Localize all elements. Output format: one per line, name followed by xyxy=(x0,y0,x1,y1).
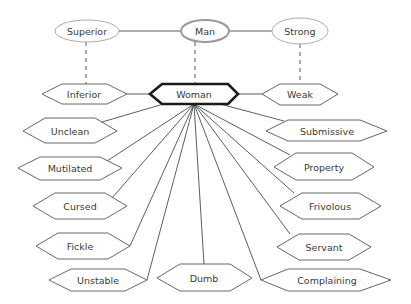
svg-text:Strong: Strong xyxy=(284,26,315,37)
node-unstable: Unstable xyxy=(49,269,147,291)
svg-text:Frivolous: Frivolous xyxy=(309,201,351,212)
node-dumb: Dumb xyxy=(157,264,252,291)
svg-text:Complaining: Complaining xyxy=(297,275,357,286)
svg-text:Servant: Servant xyxy=(306,242,343,253)
svg-text:Man: Man xyxy=(195,26,215,37)
node-complaining: Complaining xyxy=(261,269,391,291)
node-frivolous: Frivolous xyxy=(280,193,381,219)
svg-text:Unstable: Unstable xyxy=(77,275,119,286)
node-property: Property xyxy=(274,153,374,180)
woman-concept-diagram: Superior Man Strong Woman Inferior Weak … xyxy=(0,0,411,304)
node-woman: Woman xyxy=(150,84,238,104)
svg-text:Superior: Superior xyxy=(67,26,107,37)
svg-text:Inferior: Inferior xyxy=(67,89,101,100)
svg-text:Cursed: Cursed xyxy=(63,201,96,212)
node-servant: Servant xyxy=(277,234,371,260)
node-mutilated: Mutilated xyxy=(18,157,122,180)
node-strong: Strong xyxy=(272,18,328,44)
node-inferior: Inferior xyxy=(42,84,127,104)
svg-text:Fickle: Fickle xyxy=(67,241,94,252)
svg-text:Unclean: Unclean xyxy=(51,126,90,137)
svg-text:Weak: Weak xyxy=(287,89,314,100)
svg-text:Property: Property xyxy=(304,162,345,173)
radiating-edges xyxy=(102,103,294,280)
node-submissive: Submissive xyxy=(266,120,387,141)
node-fickle: Fickle xyxy=(36,233,130,259)
svg-text:Submissive: Submissive xyxy=(300,126,354,137)
node-man: Man xyxy=(181,20,229,42)
svg-text:Mutilated: Mutilated xyxy=(48,163,93,174)
node-weak: Weak xyxy=(262,84,338,105)
node-superior: Superior xyxy=(55,20,119,42)
svg-text:Dumb: Dumb xyxy=(190,273,219,284)
svg-text:Woman: Woman xyxy=(176,89,212,100)
